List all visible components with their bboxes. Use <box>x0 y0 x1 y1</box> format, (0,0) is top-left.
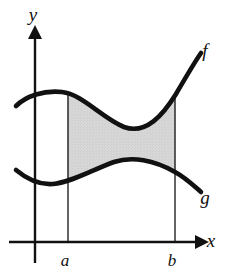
area-between-curves-diagram: x y f g a b <box>0 0 231 275</box>
tick-label-a: a <box>61 251 70 270</box>
shaded-area-between-curves <box>68 92 175 180</box>
figure-canvas: x y f g a b <box>0 0 231 275</box>
curve-g-label: g <box>200 187 210 208</box>
x-axis-label: x <box>206 230 216 251</box>
tick-label-b: b <box>168 251 177 270</box>
y-axis-label: y <box>27 4 38 25</box>
curve-f-label: f <box>202 40 210 61</box>
